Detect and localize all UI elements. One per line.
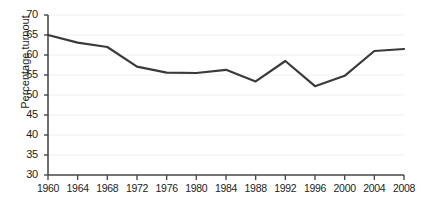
y-tick-label: 40 — [16, 129, 38, 140]
y-tick-label: 30 — [16, 169, 38, 180]
line-chart: Percentage turnout 303540455055606570 19… — [0, 0, 421, 205]
y-tick-label: 65 — [16, 29, 38, 40]
plot-area — [0, 0, 421, 205]
data-series-line — [48, 35, 404, 86]
y-tick-label: 50 — [16, 89, 38, 100]
y-tick-label: 35 — [16, 149, 38, 160]
y-tick-label: 45 — [16, 109, 38, 120]
gridlines — [48, 15, 404, 175]
y-tick-label: 60 — [16, 49, 38, 60]
y-tick-label: 55 — [16, 69, 38, 80]
x-tick-label: 2008 — [386, 183, 421, 194]
y-tick-label: 70 — [16, 9, 38, 20]
